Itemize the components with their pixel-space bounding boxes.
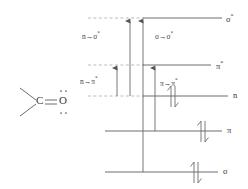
level-label-n-text: n xyxy=(233,90,237,100)
electron-spin-up-head-sigma xyxy=(191,162,195,167)
electron-spin-up-head-pi xyxy=(198,121,202,126)
level-label-n: n xyxy=(233,91,237,100)
transition-label-pi-to-pi-star-sup: * xyxy=(175,77,178,83)
electron-spin-down-head-n xyxy=(175,103,179,108)
transition-label-pi-to-pi-star: π→π* xyxy=(160,78,178,87)
transition-label-sigma-to-sigma-star-sup: * xyxy=(171,30,174,36)
level-label-pi-star: π* xyxy=(216,60,223,70)
level-label-pi-star-sup: * xyxy=(220,60,223,66)
oxygen-atom-label: O xyxy=(59,95,67,106)
level-label-sigma-star-sup: * xyxy=(231,13,234,19)
mo-energy-diagram-figure: C O σ* π* n π σ n→σ* σ→σ* n→π* π→π* xyxy=(0,0,248,189)
electron-spin-down-head-pi xyxy=(205,138,209,143)
level-label-sigma: σ xyxy=(223,167,228,176)
transition-label-n-to-pi-star: n→π* xyxy=(80,76,98,85)
oxygen-lone-pair-dot-top-left xyxy=(60,90,62,92)
level-label-sigma-text: σ xyxy=(223,166,228,176)
oxygen-lone-pair-dot-bottom-left xyxy=(60,112,62,114)
transition-label-n-to-sigma-star-sup: * xyxy=(97,30,100,36)
oxygen-lone-pair-dot-bottom-right xyxy=(65,112,67,114)
methyl-bond-lower xyxy=(20,104,36,116)
transition-label-n-to-sigma-star: n→σ* xyxy=(82,31,100,40)
methyl-bond-upper xyxy=(20,88,36,100)
level-label-pi: π xyxy=(227,126,231,135)
level-label-pi-text: π xyxy=(227,125,231,135)
energy-level-lines xyxy=(105,18,228,172)
transition-label-sigma-to-sigma-star-arrow: → xyxy=(159,32,167,41)
level-label-sigma-star: σ* xyxy=(226,13,234,23)
oxygen-lone-pair-dot-top-right xyxy=(65,90,67,92)
transition-label-n-to-pi-star-sup: * xyxy=(95,75,98,81)
electron-pairs xyxy=(168,86,209,183)
carbon-atom-label: C xyxy=(36,95,43,106)
electron-spin-down-head-sigma xyxy=(198,179,202,184)
transition-label-sigma-to-sigma-star: σ→σ* xyxy=(155,31,173,40)
